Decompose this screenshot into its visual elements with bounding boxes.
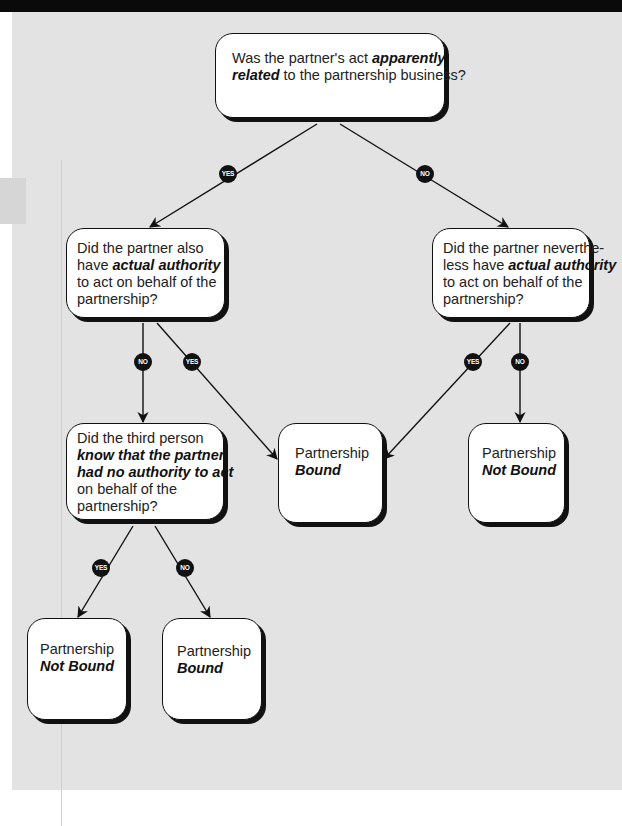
q-knowledge-line5: partnership? — [77, 498, 213, 515]
badge-yes-apparent: YES — [219, 165, 237, 183]
node-outcome-not-bound-right: Partnership Not Bound — [468, 423, 565, 523]
node-q-third-person-knowledge: Did the third person know that the partn… — [66, 423, 224, 520]
node-q-actual-authority-also: Did the partner also have actual authori… — [66, 228, 225, 318]
badge-no-knowledge: NO — [176, 559, 194, 577]
q-knowledge-line1: Did the third person — [77, 430, 213, 447]
q-knowledge-line4: on behalf of the — [77, 481, 213, 498]
badge-no-apparent: NO — [416, 165, 434, 183]
q-actual-no-pre: less have — [443, 257, 508, 273]
outcome-bound-bottom-em: Bound — [177, 660, 251, 677]
q-knowledge-em2: had no authority to act — [77, 464, 213, 481]
q-actual-no-line4: partnership? — [443, 291, 579, 308]
q-actual-yes-line1: Did the partner also — [77, 240, 214, 257]
q-actual-yes-em: actual authority — [112, 257, 220, 273]
q-actual-yes-line4: partnership? — [77, 291, 214, 308]
node-outcome-bound-center: Partnership Bound — [278, 423, 383, 523]
q-apparent-pre: Was the partner's act — [232, 50, 372, 66]
badge-yes-knowledge: YES — [92, 559, 110, 577]
q-knowledge-em1: know that the partner — [77, 447, 213, 464]
q-actual-yes-line3: to act on behalf of the — [77, 274, 214, 291]
q-actual-no-line3: to act on behalf of the — [443, 274, 579, 291]
q-apparent-post: to the partnership business? — [280, 67, 466, 83]
node-outcome-bound-bottom: Partnership Bound — [162, 618, 262, 720]
badge-yes-actual-nevertheless: YES — [464, 353, 482, 371]
outcome-bound-bottom-line1: Partnership — [177, 643, 251, 660]
node-outcome-not-bound-bottom: Partnership Not Bound — [27, 618, 127, 720]
q-actual-no-line1: Did the partner neverthe- — [443, 240, 579, 257]
node-q-actual-authority-nevertheless: Did the partner neverthe- less have actu… — [432, 228, 590, 318]
outcome-not-bound-bottom-em: Not Bound — [40, 658, 116, 675]
q-actual-yes-pre: have — [77, 257, 112, 273]
q-apparent-em-2: related — [232, 67, 280, 83]
q-apparent-em-1: apparently — [372, 50, 445, 66]
node-q-apparently-related: Was the partner's act apparently related… — [215, 33, 445, 118]
outcome-not-bound-bottom-line1: Partnership — [40, 641, 116, 658]
badge-no-actual-also: NO — [134, 353, 152, 371]
outcome-not-bound-right-em: Not Bound — [482, 462, 554, 479]
outcome-bound-center-line1: Partnership — [295, 445, 372, 462]
badge-no-actual-nevertheless: NO — [511, 353, 529, 371]
q-actual-no-em: actual authority — [508, 257, 616, 273]
outcome-bound-center-em: Bound — [295, 462, 372, 479]
badge-yes-actual-also: YES — [183, 353, 201, 371]
outcome-not-bound-right-line1: Partnership — [482, 445, 554, 462]
